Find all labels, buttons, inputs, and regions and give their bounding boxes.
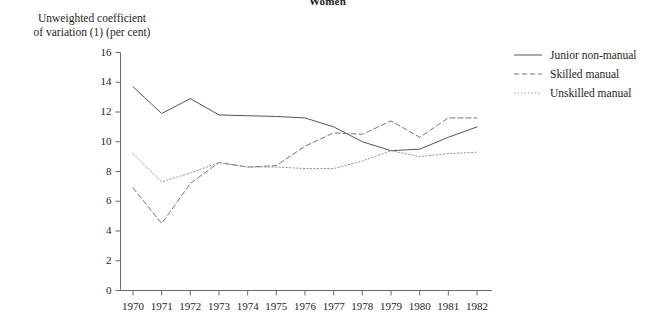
data-series-group [133, 87, 477, 224]
legend-item[interactable]: Skilled manual [514, 64, 654, 83]
legend-label: Unskilled manual [550, 87, 631, 99]
y-tick-label: 2 [84, 254, 112, 266]
axes [116, 53, 493, 296]
y-tick-label: 8 [84, 165, 112, 177]
legend-swatch-solid-icon [514, 50, 542, 60]
legend-item[interactable]: Unskilled manual [514, 83, 654, 102]
y-tick-label: 10 [84, 135, 112, 147]
chart-figure: Women Unweighted coefficient of variatio… [0, 0, 655, 326]
legend-label: Skilled manual [550, 68, 619, 80]
x-tick-label: 1982 [457, 300, 497, 312]
legend-swatch-dotted-icon [514, 88, 542, 98]
y-tick-label: 0 [84, 284, 112, 296]
y-tick-label: 12 [84, 105, 112, 117]
y-tick-label: 14 [84, 75, 112, 87]
legend-item[interactable]: Junior non-manual [514, 45, 654, 64]
series-line-0 [133, 87, 477, 151]
legend-swatch-dashed-icon [514, 69, 542, 79]
series-line-1 [133, 118, 477, 224]
chart-legend: Junior non-manualSkilled manualUnskilled… [514, 45, 654, 102]
y-tick-label: 16 [84, 46, 112, 58]
y-tick-label: 4 [84, 224, 112, 236]
series-line-2 [133, 151, 477, 182]
legend-label: Junior non-manual [550, 49, 637, 61]
y-tick-label: 6 [84, 194, 112, 206]
